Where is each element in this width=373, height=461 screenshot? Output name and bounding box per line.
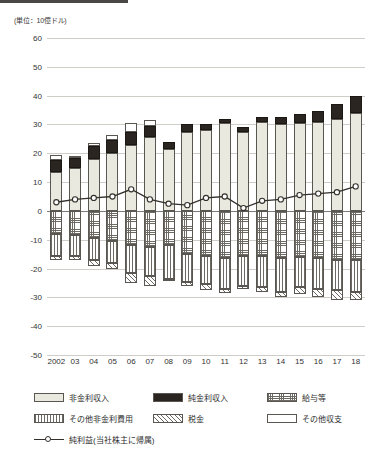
bar-column [163, 38, 175, 355]
bar-segment-nonintexp [144, 247, 156, 276]
bar-segment-tax [163, 279, 175, 281]
legend-swatch-salary [267, 393, 297, 402]
chart-legend: 非金利収入 純金利収入 給与等 その他非金利費用 税金 その他収支 純利益(当社… [20, 392, 365, 455]
y-tick-40: 40 [33, 91, 42, 100]
legend-swatch-nonint [34, 393, 64, 402]
bar-segment-tax [312, 289, 324, 298]
legend-swatch-nonintexp [34, 414, 64, 423]
bar-segment-nonintexp [219, 258, 231, 288]
x-tick-06: 06 [127, 357, 136, 366]
bar-segment-nonintexp [275, 258, 287, 291]
bar-segment-nonint [106, 153, 118, 211]
bar-segment-nonintexp [200, 256, 212, 285]
bar-segment-salary [69, 211, 81, 235]
y-tick-0: 0 [38, 206, 42, 215]
bar-segment-tax [294, 287, 306, 294]
bar-segment-nonintexp [88, 238, 100, 260]
bar-segment-tax [275, 292, 287, 298]
x-tick-09: 09 [183, 357, 192, 366]
bar-segment-salary [350, 211, 362, 260]
bar-segment-tax [69, 256, 81, 260]
bar-segment-other [144, 120, 156, 126]
y-tick--30: -30 [30, 293, 42, 302]
bar-segment-nonint [350, 113, 362, 211]
bar-column [350, 38, 362, 355]
legend-item-netint: 純金利収入 [153, 392, 228, 403]
x-tick-18: 18 [351, 357, 360, 366]
legend-label-nonintexp: その他非金利費用 [69, 413, 133, 424]
bar-segment-nonintexp [50, 234, 62, 256]
legend-item-netincome: 純利益(当社株主に帰属) [34, 434, 154, 445]
bar-segment-nonint [294, 123, 306, 211]
bar-segment-tax [256, 287, 268, 291]
bar-segment-nonint [237, 132, 249, 211]
bar-segment-nonintexp [181, 254, 193, 281]
bar-column [125, 38, 137, 355]
bar-segment-other [106, 135, 118, 141]
x-tick-15: 15 [295, 357, 304, 366]
bar-segment-netint [125, 132, 137, 145]
y-tick--10: -10 [30, 235, 42, 244]
bar-column [219, 38, 231, 355]
y-tick--50: -50 [30, 351, 42, 360]
bar-segment-nonintexp [312, 258, 324, 288]
bar-segment-other [88, 143, 100, 146]
bar-segment-salary [275, 211, 287, 259]
bar-segment-nonint [181, 132, 193, 211]
bar-column [331, 38, 343, 355]
bar-segment-tax [144, 276, 156, 286]
bar-segment-tax [181, 282, 193, 286]
bar-segment-salary [331, 211, 343, 260]
y-tick-10: 10 [33, 178, 42, 187]
y-tick--20: -20 [30, 264, 42, 273]
bar-segment-nonintexp [256, 256, 268, 288]
bar-segment-nonintexp [69, 235, 81, 255]
bar-segment-nonintexp [237, 256, 249, 286]
bar-column [50, 38, 62, 355]
bar-segment-nonint [163, 149, 175, 211]
legend-label-tax: 税金 [188, 413, 204, 424]
x-tick-03: 03 [71, 357, 80, 366]
bar-segment-netint [256, 117, 268, 121]
bar-column [275, 38, 287, 355]
legend-label-netint: 純金利収入 [188, 392, 228, 403]
bar-segment-netint [219, 119, 231, 123]
unit-label: (単位：10億ドル) [14, 15, 66, 25]
bar-segment-tax [125, 273, 137, 283]
gridline--50: -50 [47, 355, 365, 356]
legend-row-2: その他非金利費用 税金 その他収支 [20, 413, 365, 434]
bar-segment-nonint [144, 137, 156, 210]
bar-segment-netint [275, 117, 287, 124]
legend-row-3: 純利益(当社株主に帰属) [20, 434, 365, 455]
bar-segment-netint [163, 142, 175, 149]
y-tick--40: -40 [30, 322, 42, 331]
bar-segment-salary [312, 211, 324, 259]
bar-segment-nonint [275, 124, 287, 210]
bar-segment-tax [350, 292, 362, 301]
bar-segment-nonint [312, 122, 324, 211]
bar-segment-netint [312, 111, 324, 121]
bar-column [200, 38, 212, 355]
bar-segment-netint [88, 146, 100, 159]
legend-swatch-other [267, 414, 297, 423]
x-tick-16: 16 [314, 357, 323, 366]
bar-segment-salary [163, 211, 175, 246]
bar-segment-salary [50, 211, 62, 234]
legend-label-nonint: 非金利収入 [69, 392, 109, 403]
bar-segment-other [50, 155, 62, 161]
x-tick-12: 12 [239, 357, 248, 366]
bar-segment-tax [237, 286, 249, 289]
x-tick-04: 04 [89, 357, 98, 366]
x-tick-08: 08 [164, 357, 173, 366]
bar-segment-netint [350, 96, 362, 113]
bar-segment-salary [88, 211, 100, 238]
legend-item-salary: 給与等 [267, 392, 326, 403]
bar-segment-tax [106, 263, 118, 269]
page-header-remnant [0, 0, 128, 3]
legend-label-netincome: 純利益(当社株主に帰属) [69, 434, 154, 445]
legend-row-1: 非金利収入 純金利収入 給与等 [20, 392, 365, 413]
bar-segment-nonint [200, 130, 212, 211]
bar-segment-nonint [125, 145, 137, 211]
y-tick-20: 20 [33, 149, 42, 158]
bar-column [312, 38, 324, 355]
